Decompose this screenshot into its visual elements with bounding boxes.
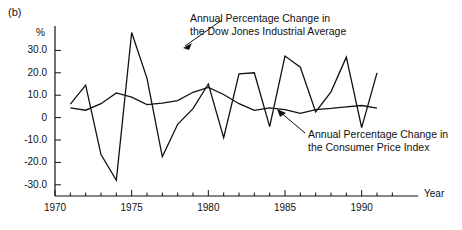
series-line-djia: [70, 32, 377, 180]
annotation-djia: Annual Percentage Change in the Dow Jone…: [190, 12, 346, 37]
annotation-cpi-line1: Annual Percentage Change in: [308, 128, 448, 141]
y-axis-tick-label: 20.0: [7, 67, 47, 78]
y-axis-tick-label: 0: [7, 112, 47, 123]
figure-panel: (b) % 30.020.010.00-10.0-20.0-30.0 19701…: [0, 0, 462, 230]
x-axis-tick-label: 1980: [188, 202, 228, 213]
x-axis-tick-label: 1985: [265, 202, 305, 213]
annotation-djia-line2: the Dow Jones Industrial Average: [190, 25, 346, 38]
x-axis-tick-label: 1970: [35, 202, 75, 213]
annotation-cpi: Annual Percentage Change in the Consumer…: [308, 128, 448, 153]
x-axis-tick-label: 1990: [342, 202, 382, 213]
x-axis-tick-label: 1975: [112, 202, 152, 213]
y-axis-tick-label: 10.0: [7, 89, 47, 100]
annotation-djia-line1: Annual Percentage Change in: [190, 12, 346, 25]
y-axis-tick-label: -20.0: [7, 156, 47, 167]
x-axis-title: Year: [424, 188, 444, 199]
annotation-cpi-line2: the Consumer Price Index: [308, 141, 448, 154]
y-axis-tick-label: 30.0: [7, 44, 47, 55]
y-axis-tick-label: -10.0: [7, 134, 47, 145]
y-axis-tick-label: -30.0: [7, 179, 47, 190]
